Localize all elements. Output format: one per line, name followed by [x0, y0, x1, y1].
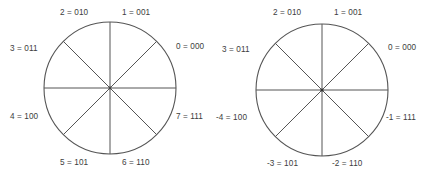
signed-label-minus-3: -3 = 101	[267, 159, 298, 169]
signed-label-minus-2: -2 = 110	[332, 159, 362, 169]
signed-label-3: 3 = 011	[222, 45, 250, 55]
unsigned-label-4: 4 = 100	[10, 112, 38, 122]
unsigned-number-wheel-diagram: 2 = 010 1 = 001 3 = 011 0 = 000 4 = 100 …	[0, 0, 215, 179]
center-point	[109, 87, 112, 90]
unsigned-label-2: 2 = 010	[60, 8, 88, 18]
signed-label-minus-1: -1 = 111	[386, 113, 416, 123]
signed-label-0: 0 = 000	[388, 43, 416, 53]
unsigned-label-1: 1 = 001	[122, 8, 150, 18]
unsigned-label-5: 5 = 101	[60, 158, 88, 168]
unsigned-label-6: 6 = 110	[122, 158, 150, 168]
signed-label-2: 2 = 010	[273, 8, 301, 18]
unsigned-wheel-graphic	[0, 0, 215, 179]
signed-number-wheel-diagram: 2 = 010 1 = 001 3 = 011 0 = 000 -4 = 100…	[215, 0, 430, 179]
signed-label-minus-4: -4 = 100	[216, 113, 247, 123]
signed-label-1: 1 = 001	[334, 8, 362, 18]
unsigned-label-7: 7 = 111	[176, 112, 203, 122]
center-point	[320, 88, 323, 91]
unsigned-label-0: 0 = 000	[176, 42, 204, 52]
unsigned-label-3: 3 = 011	[10, 44, 38, 54]
number-wheel-figure: 2 = 010 1 = 001 3 = 011 0 = 000 4 = 100 …	[0, 0, 430, 179]
signed-wheel-graphic	[215, 0, 430, 179]
